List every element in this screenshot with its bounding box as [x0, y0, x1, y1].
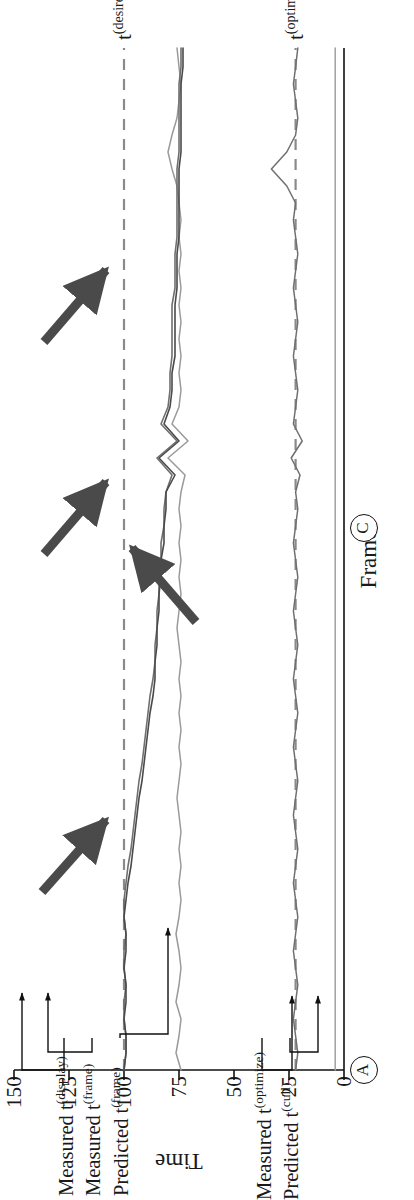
legend-label-measured-frame: Measured t	[82, 1104, 104, 1196]
legend-sup-predicted-frame: (frame)	[108, 1067, 123, 1107]
legend-item-predicted-frame: Predicted t(frame)	[107, 1056, 134, 1196]
t-optimize-label: t(optimize)	[283, 0, 309, 40]
legend-item-measured-frame: Measured t(frame)	[79, 1056, 106, 1196]
t-desired-base: t	[112, 34, 136, 40]
legend-upper: Measured t(display) Measured t(frame) Pr…	[52, 1056, 134, 1196]
y-tick-150: 150	[2, 1076, 27, 1108]
plot-area	[14, 48, 344, 1070]
legend-label-predicted-cull: Predicted t	[280, 1112, 302, 1200]
legend-label-measured-display: Measured t	[55, 1104, 77, 1196]
series-group	[124, 48, 335, 1070]
legend-sup-predicted-cull: (cull)	[278, 1083, 293, 1112]
x-axis-title: Frame	[356, 48, 382, 1070]
legend-item-measured-display: Measured t(display)	[52, 1056, 79, 1196]
series-predicted-frame	[168, 48, 188, 1070]
series-measured-frame	[124, 48, 183, 1070]
t-optimize-sup: (optimize)	[283, 0, 298, 34]
marker-c: C	[350, 514, 378, 542]
series-measured-display	[124, 48, 181, 1070]
t-optimize-base: t	[284, 34, 308, 40]
t-desired-sup: (desired)	[111, 0, 126, 34]
marker-a-label: A	[353, 1064, 372, 1076]
legend-item-predicted-cull: Predicted t(cull)	[277, 1052, 304, 1200]
legend-sup-measured-optimize: (optimize)	[251, 1052, 266, 1108]
legend-lower: Measured t(optimize) Predicted t(cull)	[250, 1052, 305, 1200]
marker-a: A	[350, 1056, 378, 1084]
marker-c-label: C	[353, 522, 372, 533]
legend-item-measured-optimize: Measured t(optimize)	[250, 1052, 277, 1200]
legend-label-predicted-frame: Predicted t	[110, 1108, 132, 1196]
legend-label-measured-optimize: Measured t	[253, 1108, 275, 1200]
t-desired-label: t(desired)	[111, 0, 137, 40]
series-measured-optimize	[271, 48, 302, 1070]
plot-svg	[14, 48, 344, 1070]
legend-sup-measured-display: (display)	[53, 1056, 68, 1104]
legend-sup-measured-frame: (frame)	[80, 1064, 95, 1104]
